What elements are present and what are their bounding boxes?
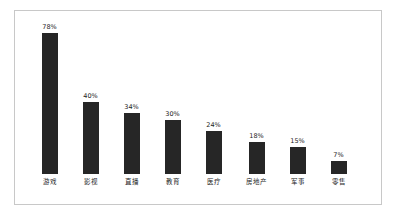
bar-rect[interactable] bbox=[290, 147, 306, 174]
bar-rect[interactable] bbox=[165, 120, 181, 174]
bar-rect[interactable] bbox=[42, 33, 58, 174]
bar-group[interactable]: 40%影视 bbox=[71, 102, 111, 174]
bar-chart-figure: 78%游戏40%影视34%直播30%教育24%医疗18%房地产15%军事7%零售 bbox=[0, 0, 398, 220]
bar-category-label: 零售 bbox=[316, 174, 362, 187]
bar-group[interactable]: 7%零售 bbox=[319, 161, 359, 174]
bar-group[interactable]: 34%直播 bbox=[112, 113, 152, 175]
bar-category-label: 直播 bbox=[109, 174, 155, 187]
bar-value-label: 78% bbox=[30, 23, 70, 33]
bar-category-label: 教育 bbox=[150, 174, 196, 187]
bar-rect[interactable] bbox=[249, 142, 265, 175]
bar-value-label: 30% bbox=[153, 110, 193, 120]
bar-rect[interactable] bbox=[124, 113, 140, 175]
bar-value-label: 7% bbox=[319, 151, 359, 161]
bar-group[interactable]: 30%教育 bbox=[153, 120, 193, 174]
bar-value-label: 34% bbox=[112, 103, 152, 113]
bar-group[interactable]: 24%医疗 bbox=[194, 131, 234, 174]
bar-value-label: 18% bbox=[237, 132, 277, 142]
bar-category-label: 影视 bbox=[68, 174, 114, 187]
bar-category-label: 房地产 bbox=[234, 174, 280, 187]
plot-area: 78%游戏40%影视34%直播30%教育24%医疗18%房地产15%军事7%零售 bbox=[14, 10, 382, 205]
bar-group[interactable]: 15%军事 bbox=[278, 147, 318, 174]
bar-group[interactable]: 78%游戏 bbox=[30, 33, 70, 174]
bar-category-label: 军事 bbox=[275, 174, 321, 187]
bar-group[interactable]: 18%房地产 bbox=[237, 142, 277, 175]
bar-value-label: 24% bbox=[194, 121, 234, 131]
bar-value-label: 15% bbox=[278, 137, 318, 147]
bar-category-label: 医疗 bbox=[191, 174, 237, 187]
bar-category-label: 游戏 bbox=[27, 174, 73, 187]
bar-rect[interactable] bbox=[331, 161, 347, 174]
bar-value-label: 40% bbox=[71, 92, 111, 102]
bar-rect[interactable] bbox=[83, 102, 99, 174]
bar-rect[interactable] bbox=[206, 131, 222, 174]
